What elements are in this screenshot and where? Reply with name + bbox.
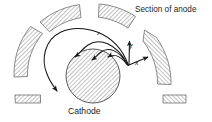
anode-left-upper bbox=[14, 27, 43, 78]
magnetron-diagram bbox=[0, 0, 212, 122]
axis-x-label: x bbox=[135, 59, 139, 66]
anode-top-right bbox=[99, 4, 136, 28]
arc-label: z bbox=[97, 31, 100, 37]
anode-stub-bottom-right bbox=[163, 95, 186, 103]
anode-label: Section of anode bbox=[135, 6, 196, 14]
anode-stub-bottom-left bbox=[15, 95, 41, 103]
anode-top-left bbox=[40, 5, 81, 32]
axis-y-label: y bbox=[129, 42, 133, 49]
cathode-label: Cathode bbox=[68, 107, 101, 116]
cathode-body bbox=[66, 49, 120, 103]
